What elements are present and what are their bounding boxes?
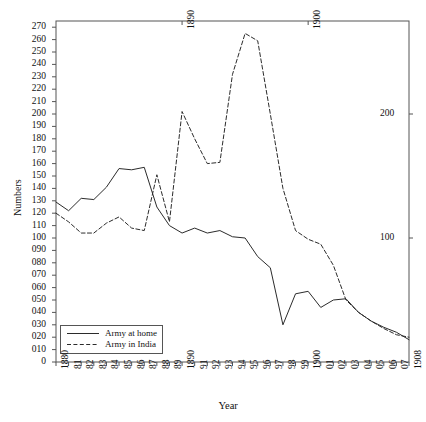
x-axis-tick-label: 1890 [186,350,196,369]
x-axis-tick-label: 83 [98,360,108,370]
x-axis-tick-label: 87 [148,360,158,370]
y-axis-tick-label: 090 [16,244,46,254]
x-axis-tick-label: 01 [325,360,335,370]
top-axis-tick-label: 1900 [312,10,322,29]
x-axis-tick-label: 04 [363,360,373,370]
legend-label-army-in-india: Army in India [105,339,156,350]
y-axis-tick-label: 080 [16,257,46,267]
y-axis-tick-label: 130 [16,195,46,205]
x-axis-tick-label: 95 [249,360,259,370]
x-axis-tick-label: 85 [123,360,133,370]
legend-swatch-solid [66,329,100,338]
y-axis-tick-label: 010 [16,344,46,354]
x-axis-tick-label: 05 [375,360,385,370]
y-axis-tick-label: 200 [16,108,46,118]
chart-legend: Army at home Army in India [60,325,163,354]
x-axis-tick-label: 88 [161,360,171,370]
x-axis-tick-label: 94 [237,360,247,370]
y-axis-tick-label: 140 [16,182,46,192]
x-axis-tick-label: 93 [224,360,234,370]
x-axis-tick-label: 03 [350,360,360,370]
y-axis-tick-label: 050 [16,294,46,304]
right-axis-tick-label: 200 [380,108,394,118]
right-axis-tick-label: 100 [380,232,394,242]
plot-frame [56,21,409,362]
legend-item-army-at-home: Army at home [66,328,157,339]
y-axis-tick-label: 230 [16,71,46,81]
x-axis-tick-label: 91 [199,360,209,370]
x-axis-tick-label: 96 [262,360,272,370]
y-axis-tick-label: 240 [16,58,46,68]
y-axis-tick-label: 190 [16,120,46,130]
y-axis-tick-label: 270 [16,21,46,31]
y-axis-tick-label: 210 [16,96,46,106]
y-axis-tick-label: 0 [16,356,46,366]
x-axis-tick-label: 84 [110,360,120,370]
x-axis-tick-label: 1900 [312,350,322,369]
y-axis-tick-label: 220 [16,83,46,93]
x-axis-tick-label: 02 [337,360,347,370]
y-axis-tick-label: 070 [16,269,46,279]
legend-swatch-dashed [66,340,100,349]
x-axis-tick-label: 1880 [60,350,70,369]
y-axis-tick-label: 180 [16,133,46,143]
y-axis-tick-label: 250 [16,46,46,56]
y-axis-tick-label: 260 [16,34,46,44]
y-axis-tick-label: 160 [16,158,46,168]
x-axis-tick-label: 92 [211,360,221,370]
series-line-army-in-india [56,33,409,337]
y-axis-tick-label: 100 [16,232,46,242]
x-axis-tick-label: 1908 [413,350,423,369]
legend-item-army-in-india: Army in India [66,339,157,350]
y-axis-tick-label: 110 [16,220,46,230]
series-line-army-at-home [56,167,409,339]
x-axis-tick-label: 89 [173,360,183,370]
y-axis-tick-label: 150 [16,170,46,180]
chart-container: Numbers Year Army at home Army in India … [0,0,426,422]
y-axis-tick-label: 170 [16,145,46,155]
y-axis-tick-label: 030 [16,319,46,329]
x-axis-tick-label: 97 [274,360,284,370]
y-axis-tick-label: 060 [16,282,46,292]
y-axis-tick-label: 040 [16,306,46,316]
x-axis-tick-label: 86 [136,360,146,370]
x-axis-tick-label: 81 [73,360,83,370]
x-axis-tick-label: 82 [85,360,95,370]
y-axis-tick-label: 020 [16,331,46,341]
top-axis-tick-label: 1890 [186,10,196,29]
x-axis-label: Year [219,400,238,411]
x-axis-tick-label: 98 [287,360,297,370]
x-axis-tick-label: 06 [388,360,398,370]
legend-label-army-at-home: Army at home [105,328,157,339]
x-axis-tick-label: 99 [300,360,310,370]
y-axis-tick-label: 120 [16,207,46,217]
x-axis-tick-label: 07 [400,360,410,370]
